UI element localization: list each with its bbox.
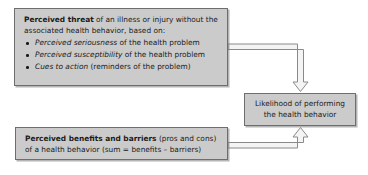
list-item: Perceived seriousness of the health prob… [24, 38, 219, 49]
arrow-threat-to-likelihood [228, 44, 308, 92]
benefits-lead-bold: Perceived benefits and barriers [25, 134, 157, 143]
bullet-rest-3: (reminders of the problem) [88, 62, 190, 71]
list-item: Perceived susceptibility of the health p… [24, 50, 219, 61]
threat-lead-text: Perceived threat of an illness or injury… [24, 15, 219, 36]
bullet-rest-1: of the health problem [117, 38, 200, 47]
bullet-rest-2: of the health problem [122, 50, 205, 59]
likelihood-text: Likelihood of performing the health beha… [249, 99, 351, 120]
likelihood-line-2: the health behavior [264, 110, 337, 119]
list-item: Cues to action (reminders of the problem… [24, 62, 219, 73]
benefits-lead-text: Perceived benefits and barriers (pros an… [25, 134, 219, 155]
threat-bullet-list: Perceived seriousness of the health prob… [24, 38, 219, 73]
node-perceived-threat: Perceived threat of an illness or injury… [14, 8, 228, 86]
node-perceived-benefits-and-barriers: Perceived benefits and barriers (pros an… [15, 127, 228, 160]
threat-lead-bold: Perceived threat [24, 15, 94, 24]
likelihood-line-1: Likelihood of performing [255, 99, 345, 108]
bullet-italic-2: Perceived susceptibility [35, 50, 122, 59]
bullet-dot-icon [26, 66, 29, 69]
bullet-italic-1: Perceived seriousness [35, 38, 117, 47]
bullet-dot-icon [26, 42, 29, 45]
bullet-italic-3: Cues to action [35, 62, 88, 71]
bullet-dot-icon [26, 54, 29, 57]
arrow-benefits-to-likelihood [228, 128, 308, 149]
node-likelihood-of-performing: Likelihood of performing the health beha… [244, 93, 356, 126]
diagram-canvas: Perceived threat of an illness or injury… [0, 0, 368, 175]
